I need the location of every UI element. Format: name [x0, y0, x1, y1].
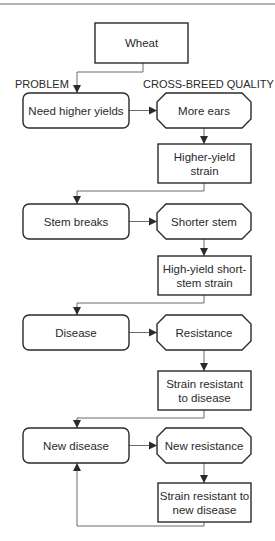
- connector-wheat-to-problem: [77, 63, 143, 93]
- arrow-down-icon: [200, 363, 208, 371]
- arrow-down-icon: [73, 196, 81, 204]
- arrow-down-icon: [200, 475, 208, 483]
- resistance-label-line: Resistance: [176, 327, 233, 339]
- arrow-right-icon: [149, 442, 157, 450]
- node-disease: Disease: [23, 315, 129, 350]
- node-strain-resistant-to-new-disease: Strain resistant tonew disease: [158, 483, 251, 522]
- arrow-down-icon: [73, 420, 81, 428]
- stem-breaks-label-line: Stem breaks: [44, 216, 109, 228]
- high-yield-short-stem-strain-label-line: High-yield short-: [163, 263, 247, 275]
- node-wheat: Wheat: [95, 23, 188, 63]
- node-new-disease: New disease: [23, 428, 129, 463]
- more-ears-label-line: More ears: [178, 105, 230, 117]
- arrow-right-icon: [149, 107, 157, 115]
- higher-yield-strain-label-line: strain: [190, 165, 218, 177]
- higher-yield-strain-label-line: Higher-yield: [174, 151, 235, 163]
- arrow-down-icon: [200, 136, 208, 144]
- arrow-down-icon: [200, 248, 208, 256]
- column-label-problem: PROBLEM: [15, 78, 69, 90]
- node-need-higher-yields: Need higher yields: [23, 93, 129, 128]
- arrow-down-icon: [73, 85, 81, 93]
- need-higher-yields-label-line: Need higher yields: [28, 105, 124, 117]
- shorter-stem-label-line: Shorter stem: [171, 216, 237, 228]
- connector-result-to-next-problem: [77, 183, 204, 204]
- flowchart: PROBLEM CROSS-BREED QUALITY WheatNeed hi…: [0, 0, 275, 541]
- node-high-yield-short-stem-strain: High-yield short-stem strain: [158, 256, 251, 295]
- node-stem-breaks: Stem breaks: [23, 204, 129, 239]
- new-disease-label-line: New disease: [43, 440, 109, 452]
- arrow-up-icon: [73, 463, 81, 471]
- connector-result-to-next-problem: [77, 410, 204, 428]
- strain-resistant-to-disease-label-line: to disease: [178, 392, 230, 404]
- node-strain-resistant-to-disease: Strain resistantto disease: [158, 371, 251, 410]
- node-more-ears: More ears: [157, 93, 251, 128]
- column-label-cross-breed-quality: CROSS-BREED QUALITY: [143, 78, 274, 90]
- node-higher-yield-strain: Higher-yieldstrain: [158, 144, 251, 183]
- node-shorter-stem: Shorter stem: [157, 204, 251, 239]
- connector-result-to-next-problem: [77, 295, 204, 315]
- node-resistance: Resistance: [157, 315, 251, 350]
- wheat-label-line: Wheat: [125, 37, 159, 49]
- strain-resistant-to-disease-label-line: Strain resistant: [166, 378, 244, 390]
- arrow-down-icon: [73, 307, 81, 315]
- new-resistance-label-line: New resistance: [165, 440, 244, 452]
- high-yield-short-stem-strain-label-line: stem strain: [176, 277, 232, 289]
- arrow-right-icon: [149, 218, 157, 226]
- arrow-right-icon: [149, 329, 157, 337]
- node-new-resistance: New resistance: [157, 428, 251, 463]
- disease-label-line: Disease: [55, 327, 97, 339]
- strain-resistant-to-new-disease-label-line: Strain resistant to: [160, 490, 249, 502]
- strain-resistant-to-new-disease-label-line: new disease: [173, 504, 237, 516]
